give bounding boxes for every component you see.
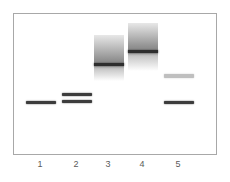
lane-5-band-1 — [164, 74, 194, 78]
lane-label-row: 12345 — [13, 158, 217, 178]
lane-3-smear — [94, 35, 124, 81]
lane-4-smear — [128, 23, 158, 71]
lane-label-2: 2 — [65, 158, 87, 170]
lane-1-band-1 — [26, 101, 56, 104]
lane-3-smear-gradient — [94, 35, 124, 81]
gel-frame — [13, 13, 217, 155]
lane-label-4: 4 — [131, 158, 153, 170]
lane-2-band-2 — [62, 100, 92, 103]
lane-3-smear-dark-band — [94, 63, 124, 66]
lane-label-3: 3 — [97, 158, 119, 170]
lane-4-smear-gradient — [128, 23, 158, 71]
gel-electrophoresis-figure: 12345 — [0, 0, 230, 182]
lane-4-smear-dark-band — [128, 50, 158, 53]
lane-label-5: 5 — [167, 158, 189, 170]
lane-5-band-2 — [164, 101, 194, 104]
lane-label-1: 1 — [29, 158, 51, 170]
lane-2-band-1 — [62, 93, 92, 96]
